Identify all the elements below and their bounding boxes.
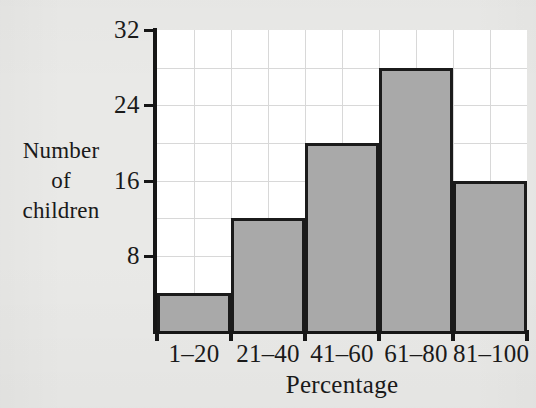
y-tick-label: 8	[96, 243, 140, 268]
x-tick-label: 81–100	[453, 340, 527, 368]
x-tick-label: 41–60	[305, 340, 379, 368]
y-tick-label: 16	[96, 168, 140, 193]
y-tick-mark	[144, 104, 155, 107]
bar-1–20	[157, 293, 231, 331]
y-tick-label: 32	[96, 17, 140, 42]
bar-41–60	[305, 143, 379, 331]
gridline-vertical	[194, 30, 195, 331]
y-axis-title-line-3: children	[6, 196, 116, 226]
y-tick-mark	[144, 180, 155, 183]
y-tick-mark	[144, 29, 155, 32]
y-tick-label: 24	[96, 92, 140, 117]
chart-page: Number of children 8162432 1–2021–4041–6…	[0, 0, 536, 408]
bar-21–40	[231, 218, 305, 331]
x-tick-label: 21–40	[231, 340, 305, 368]
x-tick-label: 61–80	[379, 340, 453, 368]
y-tick-mark	[144, 255, 155, 258]
x-tick-label: 1–20	[157, 340, 231, 368]
plot-area	[157, 30, 527, 331]
y-axis-title-line-1: Number	[6, 136, 116, 166]
x-axis-title: Percentage	[157, 371, 527, 399]
bar-61–80	[379, 68, 453, 331]
bar-81–100	[453, 181, 527, 332]
